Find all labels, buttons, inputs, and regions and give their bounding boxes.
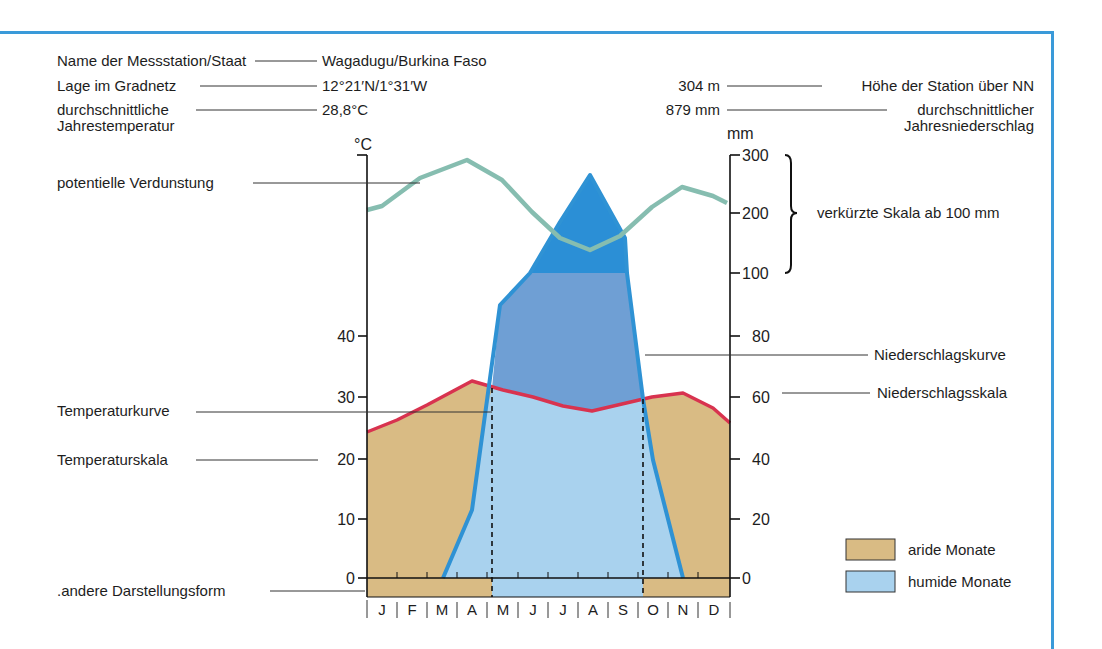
temp-scale-annotation: Temperaturskala: [57, 451, 169, 468]
precip-tick-100: 100: [742, 265, 769, 282]
precip-curve-annotation: Niederschlagskurve: [874, 346, 1006, 363]
temp-curve-annotation: Temperaturkurve: [57, 402, 170, 419]
alt-form-annotation: .andere Darstellungsform: [57, 582, 225, 599]
station-label: Name der Messstation/Staat: [57, 52, 247, 69]
position-value: 12°21′N/1°31′W: [322, 77, 428, 94]
precip-tick-20: 20: [752, 511, 770, 528]
temp-tick-30: 30: [337, 389, 355, 406]
precip-total-label: durchschnittlicher: [917, 101, 1034, 118]
month-label: M: [497, 601, 510, 618]
precip-total-label-2: Jahresniederschlag: [904, 117, 1034, 134]
station-value: Wagadugu/Burkina Faso: [322, 52, 487, 69]
shortened-scale-brace: [785, 155, 797, 273]
month-label: J: [559, 601, 567, 618]
humid-surplus-area: [492, 273, 643, 411]
month-label: J: [529, 601, 537, 618]
precip-total-value: 879 mm: [666, 101, 720, 118]
mean-temp-label-2: Jahrestemperatur: [57, 117, 175, 134]
altitude-label: Höhe der Station über NN: [861, 77, 1034, 94]
legend-arid-label: aride Monate: [908, 541, 996, 558]
precip-tick-60: 60: [752, 389, 770, 406]
month-label: A: [588, 601, 598, 618]
month-label: F: [407, 601, 416, 618]
temp-tick-40: 40: [337, 328, 355, 345]
month-label: D: [709, 601, 720, 618]
temp-tick-0: 0: [346, 570, 355, 587]
position-label: Lage im Gradnetz: [57, 77, 176, 94]
month-label: S: [618, 601, 628, 618]
pet-annotation: potentielle Verdunstung: [57, 174, 214, 191]
precipitation-ticks: [730, 155, 740, 578]
month-label: O: [647, 601, 659, 618]
legend-humid-swatch: [846, 571, 895, 592]
month-label: A: [467, 601, 477, 618]
precip-scale-annotation: Niederschlagsskala: [877, 384, 1008, 401]
mean-temp-value: 28,8°C: [322, 101, 368, 118]
temperature-ticks: [358, 336, 367, 578]
precip-tick-0: 0: [742, 570, 751, 587]
humid-strip: [492, 578, 643, 597]
month-label: J: [378, 601, 386, 618]
legend-arid-swatch: [846, 539, 895, 560]
precip-tick-200: 200: [742, 205, 769, 222]
precip-tick-80: 80: [752, 328, 770, 345]
shortened-scale-label: verkürzte Skala ab 100 mm: [817, 204, 1000, 221]
right-axis-unit: mm: [727, 125, 754, 142]
temp-tick-10: 10: [337, 511, 355, 528]
month-label: M: [436, 601, 449, 618]
temp-tick-20: 20: [337, 451, 355, 468]
mean-temp-label: durchschnittliche: [57, 101, 169, 118]
precip-tick-40: 40: [752, 451, 770, 468]
altitude-value: 304 m: [678, 77, 720, 94]
month-label: N: [678, 601, 689, 618]
precip-tick-300: 300: [742, 147, 769, 164]
month-separators: [367, 600, 730, 618]
legend-humid-label: humide Monate: [908, 573, 1011, 590]
left-axis-unit: °C: [354, 136, 372, 153]
pet-curve: [367, 160, 727, 250]
climate-diagram: Name der Messstation/Staat Wagadugu/Burk…: [0, 0, 1102, 649]
